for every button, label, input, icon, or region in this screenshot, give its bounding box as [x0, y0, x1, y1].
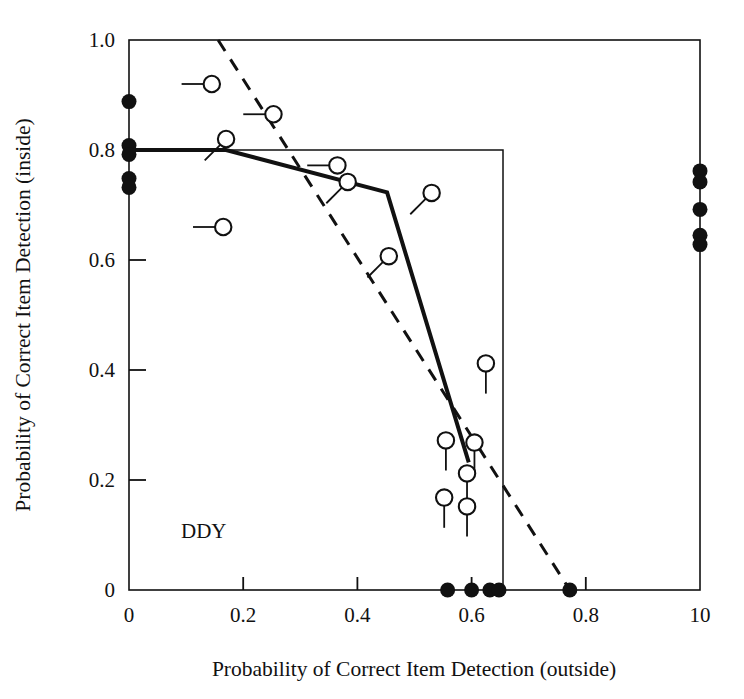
- data-point-open: [423, 185, 439, 201]
- data-point-filled: [464, 583, 479, 598]
- x-tick-label: 0.2: [230, 603, 256, 627]
- data-point-open: [459, 498, 475, 514]
- y-tick-label: 0: [105, 578, 116, 602]
- y-tick-label: 1.0: [89, 28, 115, 52]
- data-point-filled: [122, 147, 137, 162]
- scatter-plot: 00.20.40.60.810 00.20.40.60.81.0 DDY Pro…: [0, 0, 744, 699]
- data-point-filled: [122, 180, 137, 195]
- y-tick-label: 0.2: [89, 468, 115, 492]
- data-point-filled: [693, 174, 708, 189]
- chart-root: 00.20.40.60.810 00.20.40.60.81.0 DDY Pro…: [0, 0, 744, 699]
- data-point-open: [478, 355, 494, 371]
- x-tick-label: 0.6: [458, 603, 484, 627]
- data-point-filled: [693, 202, 708, 217]
- data-point-open: [218, 131, 234, 147]
- data-point-open: [436, 489, 452, 505]
- data-point-open: [215, 219, 231, 235]
- y-tick-label: 0.4: [89, 358, 116, 382]
- x-axis-title: Probability of Correct Item Detection (o…: [212, 657, 616, 681]
- data-point-open: [329, 157, 345, 173]
- x-tick-label: 0: [124, 603, 135, 627]
- y-tick-label: 0.8: [89, 138, 115, 162]
- data-point-open: [381, 248, 397, 264]
- data-point-filled: [693, 237, 708, 252]
- data-point-open: [459, 465, 475, 481]
- x-tick-label: 0.4: [344, 603, 371, 627]
- x-tick-label: 10: [690, 603, 711, 627]
- data-point-filled: [492, 583, 507, 598]
- data-point-open: [265, 106, 281, 122]
- x-tick-label: 0.8: [573, 603, 599, 627]
- data-point-open: [204, 76, 220, 92]
- data-point-open: [466, 434, 482, 450]
- data-point-filled: [122, 94, 137, 109]
- y-tick-label: 0.6: [89, 248, 115, 272]
- data-point-filled: [562, 583, 577, 598]
- y-axis-title: Probability of Correct Item Detection (i…: [11, 118, 35, 511]
- data-point-open: [438, 432, 454, 448]
- data-point-open: [339, 174, 355, 190]
- data-point-filled: [440, 583, 455, 598]
- panel-label: DDY: [181, 519, 227, 543]
